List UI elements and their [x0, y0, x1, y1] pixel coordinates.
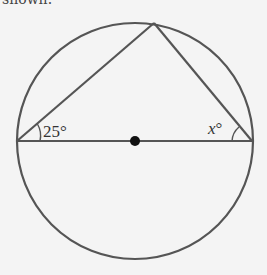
- right-angle-label: x°: [207, 119, 222, 138]
- left-chord: [17, 23, 154, 141]
- center-point: [130, 136, 140, 146]
- right-angle-degree: °: [216, 119, 223, 138]
- circle-triangle-diagram: 25° x°: [0, 0, 267, 275]
- left-angle-arc: [37, 124, 40, 141]
- right-angle-arc: [232, 127, 239, 141]
- left-angle-label: 25°: [43, 122, 67, 141]
